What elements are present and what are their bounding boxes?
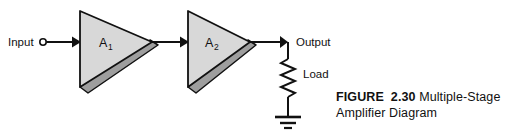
input-terminal-label: Input (8, 36, 34, 48)
caption-number: 2.30 (391, 90, 416, 104)
input-terminal-node-icon (40, 39, 46, 45)
figure-multiple-stage-amplifier: Input A 1 A 2 Output (0, 0, 529, 137)
stage-1-triangle (80, 11, 152, 87)
amplifier-stage-2: A 2 (188, 11, 256, 93)
ground-symbol-icon (275, 117, 301, 128)
stage-1-label: A (99, 36, 108, 50)
caption-prefix: FIGURE (336, 90, 384, 104)
amplifier-stage-1: A 1 (80, 11, 158, 93)
stage-2-label: A (205, 36, 214, 50)
output-terminal-label: Output (296, 36, 331, 48)
load-resistor-icon (281, 59, 295, 97)
stage-2-triangle (188, 11, 250, 87)
caption-title-line-1: Multiple-Stage (419, 90, 500, 104)
caption-title-line-2: Amplifier Diagram (336, 106, 437, 120)
stage-2-label-subscript: 2 (214, 42, 219, 52)
figure-caption: FIGURE2.30 Multiple-Stage Amplifier Diag… (336, 90, 526, 121)
load-label: Load (303, 68, 329, 80)
stage-1-label-subscript: 1 (108, 42, 113, 52)
output-arrowhead-icon (280, 36, 288, 48)
